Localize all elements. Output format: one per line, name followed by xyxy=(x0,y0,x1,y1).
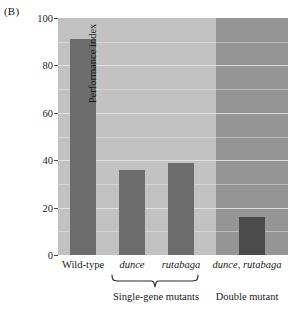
y-tick-mark-20 xyxy=(54,208,58,209)
y-tick-label-100: 100 xyxy=(37,13,53,24)
bar-rutabaga xyxy=(168,163,194,255)
x-tick-label-dunce-rutabaga: dunce, rutabaga xyxy=(213,259,282,270)
y-tick-mark-40 xyxy=(54,160,58,161)
y-tick-mark-100 xyxy=(54,18,58,19)
y-tick-label-40: 40 xyxy=(43,155,54,166)
y-axis-title: Performance index xyxy=(87,0,98,144)
plot-area: Performance index 100 80 60 40 20 0 xyxy=(58,18,288,255)
x-tick-label-wild-type: Wild-type xyxy=(62,259,104,270)
y-tick-label-80: 80 xyxy=(43,60,54,71)
x-tick-label-rutabaga: rutabaga xyxy=(162,259,201,270)
group-label-double-mutant: Double mutant xyxy=(216,291,279,302)
bar-dunce xyxy=(119,170,145,255)
x-tick-label-dunce: dunce xyxy=(119,259,144,270)
group-label-single-gene-mutants: Single-gene mutants xyxy=(113,291,199,302)
y-tick-mark-60 xyxy=(54,113,58,114)
panel-letter: (B) xyxy=(4,5,19,17)
single-gene-mutants-brace-icon xyxy=(110,274,200,288)
y-tick-label-0: 0 xyxy=(48,250,53,261)
y-tick-label-60: 60 xyxy=(43,107,54,118)
bar-dunce-rutabaga xyxy=(239,217,265,255)
y-tick-mark-80 xyxy=(54,65,58,66)
figure-panel-b: (B) Performance index 100 80 60 40 20 0 xyxy=(0,0,306,310)
y-tick-label-20: 20 xyxy=(43,202,54,213)
y-tick-mark-0 xyxy=(54,255,58,256)
